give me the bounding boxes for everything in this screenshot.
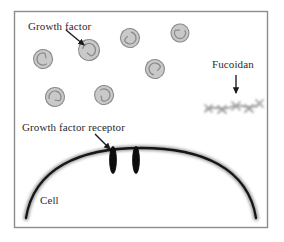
diagram-canvas: Growth factor Fucoidan Growth factor rec… (0, 0, 284, 242)
growth-factor-receptor-left[interactable] (110, 147, 117, 174)
figure-container: Growth factor Fucoidan Growth factor rec… (0, 0, 284, 242)
growth-factor-label: Growth factor (28, 20, 92, 32)
growth-factor-receptor-right[interactable] (133, 147, 140, 174)
fucoidan-label: Fucoidan (212, 58, 254, 70)
growth-factor-receptor-label: Growth factor receptor (22, 121, 125, 133)
cell-label: Cell (40, 194, 59, 206)
